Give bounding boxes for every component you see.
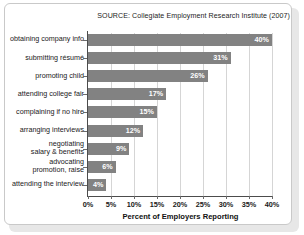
x-tick-mark (226, 196, 227, 199)
bar[interactable]: 9% (88, 143, 129, 155)
x-tick-label: 0% (83, 200, 94, 209)
bar-value-label: 9% (116, 143, 126, 155)
x-tick-mark (272, 196, 273, 199)
x-tick-label: 30% (219, 200, 234, 209)
category-label: promoting child (35, 72, 84, 80)
bar[interactable]: 4% (88, 179, 106, 191)
bar-value-label: 17% (149, 88, 163, 100)
bar[interactable]: 15% (88, 106, 157, 118)
y-tick-mark (83, 167, 87, 168)
category-label-line: salary & benefits (31, 147, 84, 156)
category-label: complaining if no hire (16, 108, 84, 116)
category-label: submitting résumé (25, 54, 84, 62)
category-label: attending college fair (18, 90, 84, 98)
category-label-line: promoting child (35, 71, 84, 80)
bar-value-label: 4% (93, 179, 103, 191)
y-tick-mark (83, 58, 87, 59)
x-tick-label: 40% (265, 200, 280, 209)
category-label-line: attending the interview (12, 179, 84, 188)
x-axis-title: Percent of Employers Reporting (88, 212, 273, 221)
x-tick-mark (157, 196, 158, 199)
bar-value-label: 31% (213, 52, 227, 64)
category-label: arranging interviews (20, 126, 84, 134)
x-tick-mark (134, 196, 135, 199)
category-label: negotiatingsalary & benefits (31, 140, 84, 156)
category-label: advocatingpromotion, raise (32, 158, 84, 174)
y-tick-mark (83, 185, 87, 186)
y-tick-mark (83, 76, 87, 77)
y-tick-mark (83, 94, 87, 95)
x-tick-label: 35% (242, 200, 257, 209)
x-tick-label: 5% (106, 200, 117, 209)
x-tick-mark (180, 196, 181, 199)
x-tick-label: 10% (127, 200, 142, 209)
x-tick-label: 20% (173, 200, 188, 209)
category-label-line: arranging interviews (20, 125, 84, 134)
bar-value-label: 6% (102, 161, 112, 173)
x-gridline (272, 33, 273, 196)
category-label-line: complaining if no hire (16, 107, 84, 116)
chart-screenshot: SOURCE: Collegiate Employment Research I… (0, 0, 304, 235)
bar[interactable]: 12% (88, 125, 143, 137)
y-tick-mark (83, 112, 87, 113)
x-tick-label: 15% (150, 200, 165, 209)
category-label-line: obtaining company info (10, 34, 84, 43)
bar-value-label: 40% (255, 34, 269, 46)
category-label: attending the interview (12, 180, 84, 188)
category-label-line: attending college fair (18, 89, 84, 98)
bar[interactable]: 26% (88, 70, 208, 82)
bar[interactable]: 31% (88, 52, 231, 64)
bar[interactable]: 40% (88, 34, 272, 46)
bar[interactable]: 6% (88, 161, 116, 173)
bar-value-label: 15% (140, 106, 154, 118)
category-label: obtaining company info (10, 35, 84, 43)
y-tick-mark (83, 149, 87, 150)
x-tick-mark (203, 196, 204, 199)
bar-chart-plot-area: Percent of Employers Reporting 0%5%10%15… (0, 0, 304, 235)
bar[interactable]: 17% (88, 88, 166, 100)
x-tick-mark (88, 196, 89, 199)
x-gridline (249, 33, 250, 196)
x-tick-mark (249, 196, 250, 199)
x-tick-label: 25% (196, 200, 211, 209)
x-tick-mark (111, 196, 112, 199)
y-tick-mark (83, 131, 87, 132)
category-label-line: promotion, raise (32, 165, 84, 174)
category-label-line: submitting résumé (25, 53, 84, 62)
bar-value-label: 26% (190, 70, 204, 82)
y-tick-mark (83, 40, 87, 41)
y-axis-line (87, 31, 88, 197)
bar-value-label: 12% (126, 125, 140, 137)
